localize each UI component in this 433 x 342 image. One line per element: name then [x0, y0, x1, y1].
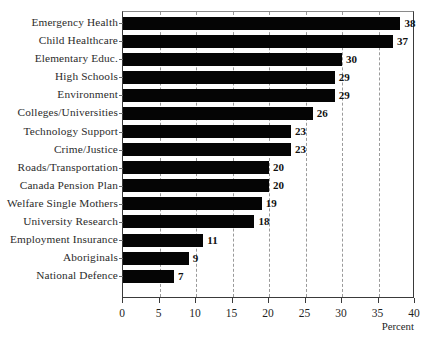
bar-row: 11 — [123, 231, 415, 250]
category-tick — [119, 186, 123, 187]
category-tick — [119, 258, 123, 259]
x-axis-tick-label: 0 — [107, 306, 137, 320]
bar-value-label: 11 — [207, 232, 217, 248]
x-axis-tick-label: 35 — [363, 306, 393, 320]
x-axis-tick — [195, 298, 196, 303]
bar-value-label: 29 — [339, 87, 350, 103]
bar — [123, 143, 291, 156]
bar-row: 29 — [123, 86, 415, 105]
category-label: Emergency Health — [2, 13, 118, 32]
category-tick — [119, 222, 123, 223]
bar-row: 20 — [123, 158, 415, 177]
plot-area: 3837302929262323202019181197 — [122, 11, 414, 298]
category-label: National Defence — [2, 266, 118, 285]
category-label: Employment Insurance — [2, 230, 118, 249]
category-label: Technology Support — [2, 122, 118, 141]
bar — [123, 71, 335, 84]
bar — [123, 107, 313, 120]
category-label: Colleges/Universities — [2, 103, 118, 122]
category-label: Elementary Educ. — [2, 49, 118, 68]
bar-row: 30 — [123, 50, 415, 69]
x-axis-tick — [232, 298, 233, 303]
bar-value-label: 18 — [258, 213, 269, 229]
category-tick — [119, 77, 123, 78]
category-tick — [119, 23, 123, 24]
bar-value-label: 23 — [295, 123, 306, 139]
category-tick — [119, 59, 123, 60]
bar-row: 9 — [123, 249, 415, 268]
bar — [123, 234, 203, 247]
bar-row: 26 — [123, 104, 415, 123]
category-label: Child Healthcare — [2, 31, 118, 50]
x-axis-tick — [341, 298, 342, 303]
bar-value-label: 29 — [339, 69, 350, 85]
x-axis-tick — [268, 298, 269, 303]
x-axis-tick-label: 30 — [326, 306, 356, 320]
x-axis-tick — [378, 298, 379, 303]
category-label: Crime/Justice — [2, 140, 118, 159]
category-tick — [119, 276, 123, 277]
category-label: University Research — [2, 212, 118, 231]
category-label: Canada Pension Plan — [2, 176, 118, 195]
x-axis-tick-label: 40 — [399, 306, 429, 320]
category-axis-labels: Emergency HealthChild HealthcareElementa… — [0, 11, 118, 298]
bar-value-label: 23 — [295, 141, 306, 157]
category-label: Roads/Transportation — [2, 158, 118, 177]
category-label: High Schools — [2, 67, 118, 86]
bar-value-label: 9 — [193, 250, 199, 266]
category-tick — [119, 132, 123, 133]
bar-row: 29 — [123, 68, 415, 87]
bar-row: 23 — [123, 122, 415, 141]
bar — [123, 197, 262, 210]
bar-row: 7 — [123, 267, 415, 286]
category-tick — [119, 41, 123, 42]
bar-chart: Emergency HealthChild HealthcareElementa… — [0, 0, 433, 342]
category-tick — [119, 240, 123, 241]
category-tick — [119, 113, 123, 114]
bar-row: 18 — [123, 212, 415, 231]
bar-value-label: 38 — [404, 15, 415, 31]
category-label: Welfare Single Mothers — [2, 194, 118, 213]
bar — [123, 179, 269, 192]
bar-row: 37 — [123, 32, 415, 51]
bar-value-label: 19 — [266, 195, 277, 211]
category-label: Environment — [2, 85, 118, 104]
bar-value-label: 26 — [317, 105, 328, 121]
bar — [123, 89, 335, 102]
bar — [123, 252, 189, 265]
bar — [123, 215, 254, 228]
x-axis-tick-label: 10 — [180, 306, 210, 320]
x-axis-tick-label: 20 — [253, 306, 283, 320]
bar-row: 19 — [123, 194, 415, 213]
x-axis-title: Percent — [352, 320, 414, 333]
bar-value-label: 20 — [273, 177, 284, 193]
bar-value-label: 30 — [346, 51, 357, 67]
x-axis-tick-label: 5 — [144, 306, 174, 320]
bar-value-label: 37 — [397, 33, 408, 49]
bar-row: 23 — [123, 140, 415, 159]
x-axis-tick — [305, 298, 306, 303]
x-axis-tick-label: 15 — [217, 306, 247, 320]
category-tick — [119, 150, 123, 151]
category-tick — [119, 168, 123, 169]
bar-row: 20 — [123, 176, 415, 195]
category-label: Aboriginals — [2, 248, 118, 267]
x-axis-tick — [414, 298, 415, 303]
x-axis-tick-label: 25 — [290, 306, 320, 320]
bar — [123, 161, 269, 174]
bar — [123, 17, 400, 30]
bar-row: 38 — [123, 14, 415, 33]
bar — [123, 35, 393, 48]
bar-value-label: 20 — [273, 159, 284, 175]
bar — [123, 53, 342, 66]
x-axis-tick — [159, 298, 160, 303]
bar — [123, 125, 291, 138]
x-axis-tick — [122, 298, 123, 303]
category-tick — [119, 95, 123, 96]
bar-value-label: 7 — [178, 268, 184, 284]
category-tick — [119, 204, 123, 205]
bar — [123, 270, 174, 283]
